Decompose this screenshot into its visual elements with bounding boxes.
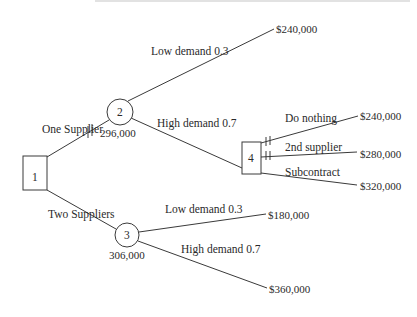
node-2-expected-value: 296,000 [100,127,136,139]
edge-n3-low-demand [139,214,266,232]
payoff-n3-low-demand: $180,000 [268,209,310,221]
prune-marks-second-supplier [266,151,270,160]
node-4-label: 4 [248,152,254,164]
payoff-n3-high-demand: $360,000 [269,283,311,295]
payoff-subcontract: $320,000 [360,180,402,192]
node-3-expected-value: 306,000 [109,249,145,261]
branch-label-do-nothing: Do nothing [285,112,337,125]
node-2-label: 2 [117,106,123,118]
branch-label-n3-low-demand: Low demand 0.3 [165,203,243,215]
branch-label-n3-high-demand: High demand 0.7 [181,243,261,256]
node-3-label: 3 [124,229,130,241]
node-1-label: 1 [32,171,38,183]
branch-label-two-suppliers: Two Suppliers [48,208,115,221]
payoff-do-nothing: $240,000 [360,110,402,122]
payoff-n2-low-demand: $240,000 [276,23,318,35]
branch-label-subcontract: Subcontract [285,166,341,178]
payoff-second-supplier: $280,000 [360,148,402,160]
edge-n2-low-demand [128,29,274,101]
branch-label-n2-low-demand: Low demand 0.3 [151,45,229,57]
branch-label-second-supplier: 2nd supplier [285,141,342,154]
decision-tree-diagram: 1 2 3 4 296,000 306,000 One Supplier Two… [0,0,417,317]
branch-label-one-supplier: One Supplier [42,123,103,136]
branch-label-n2-high-demand: High demand 0.7 [157,117,237,130]
